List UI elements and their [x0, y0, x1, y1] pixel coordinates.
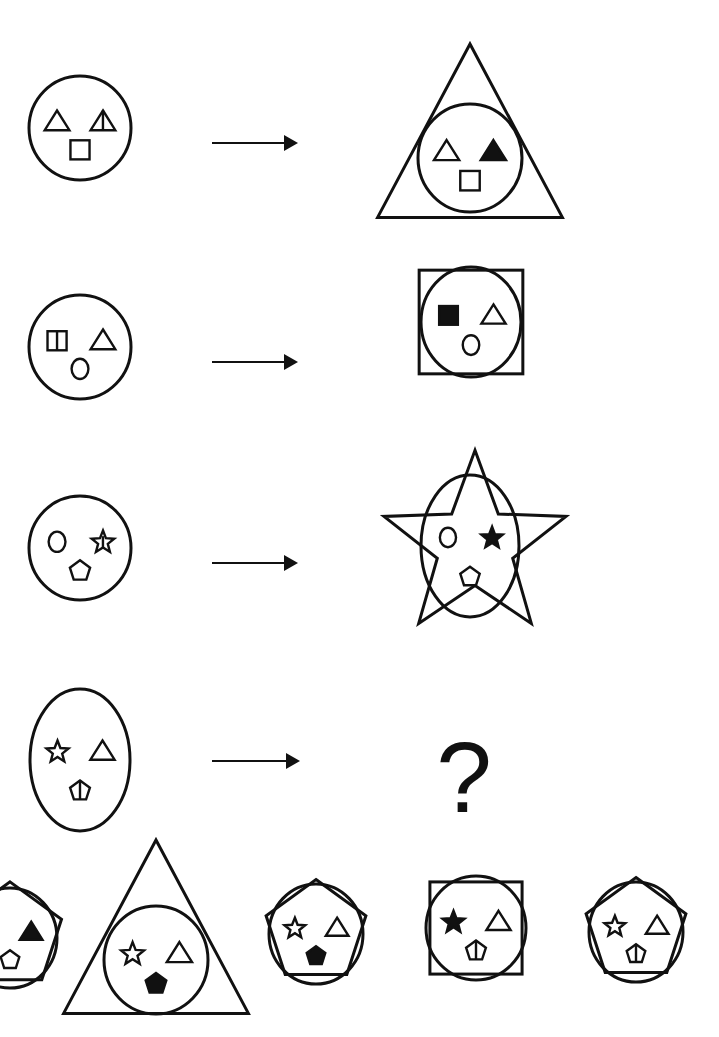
circle-shape — [49, 532, 66, 552]
circle-icon — [49, 532, 66, 552]
triangle-filled-icon — [481, 140, 506, 160]
option-3[interactable] — [266, 880, 366, 985]
example-row-2 — [29, 267, 523, 399]
triangle-shape — [91, 330, 116, 350]
triangle-shape — [486, 911, 510, 930]
example-output — [378, 44, 563, 217]
pentagon-shape — [460, 567, 479, 586]
circle-shape — [463, 335, 480, 355]
option-2[interactable] — [64, 840, 249, 1014]
face-circle — [418, 104, 522, 212]
outline-circle — [104, 906, 208, 1014]
face-circle — [29, 76, 131, 180]
star-shape — [605, 916, 626, 936]
triangle-shape — [326, 918, 349, 936]
question-mark: ? — [436, 721, 492, 833]
star-icon — [605, 916, 626, 936]
triangle-shape — [167, 942, 192, 962]
example-row-1 — [29, 44, 562, 217]
star-shape — [47, 741, 69, 762]
answer-options — [0, 840, 686, 1014]
circle-icon — [72, 359, 89, 379]
star-shape — [285, 918, 306, 938]
star-shape — [443, 911, 465, 932]
outline-circle — [269, 884, 363, 984]
arrow-head — [286, 753, 300, 769]
triangle-icon — [434, 140, 459, 160]
pentagon-shape — [70, 560, 90, 579]
circle-shape — [440, 528, 456, 547]
triangle-shape — [90, 741, 114, 760]
face-circle — [421, 267, 521, 377]
triangle-shape — [45, 111, 70, 131]
pentagon-shape — [307, 946, 326, 964]
option-4[interactable] — [426, 876, 526, 980]
pentagon-shape — [1, 950, 20, 968]
star-shape — [481, 527, 503, 548]
pentagon-icon — [70, 560, 90, 579]
face-circle — [269, 884, 363, 984]
circle-icon — [463, 335, 480, 355]
outline-circle — [426, 876, 526, 980]
square-shape — [439, 306, 458, 325]
square-filled-icon — [439, 306, 458, 325]
triangle-divided-icon — [91, 111, 116, 131]
arrow-icon — [212, 354, 298, 370]
square-shape — [460, 171, 479, 190]
outline-circle — [29, 76, 131, 180]
star-divided-icon — [92, 531, 115, 552]
square-divided-icon — [48, 331, 67, 350]
triangle-shape — [481, 304, 505, 323]
star-shape — [121, 942, 144, 964]
circle-icon — [440, 528, 456, 547]
outline-circle — [589, 882, 683, 982]
circle-shape — [72, 359, 89, 379]
arrow-icon — [212, 135, 298, 151]
triangle-filled-icon — [20, 922, 43, 940]
star-icon — [47, 741, 69, 762]
triangle-shape — [481, 140, 506, 160]
example-output — [419, 267, 523, 377]
star-icon — [121, 942, 144, 964]
triangle-icon — [45, 111, 70, 131]
arrow-head — [284, 354, 298, 370]
pentagon-filled-icon — [307, 946, 326, 964]
example-output — [384, 450, 566, 623]
example-row-3 — [29, 450, 566, 623]
triangle-icon — [646, 916, 669, 934]
star-filled-icon — [481, 527, 503, 548]
option-5[interactable] — [586, 878, 686, 983]
pentagon-divided-icon — [466, 940, 486, 959]
triangle-shape — [434, 140, 459, 160]
arrow-icon — [212, 555, 298, 571]
pentagon-filled-icon — [146, 973, 167, 993]
pentagon-icon — [460, 567, 479, 586]
triangle-icon — [90, 741, 114, 760]
triangle-icon — [326, 918, 349, 936]
pentagon-divided-icon — [627, 944, 646, 962]
square-shape — [70, 140, 89, 159]
outline-circle — [418, 104, 522, 212]
face-circle — [426, 876, 526, 980]
pentagon-shape — [146, 973, 167, 993]
arrow-head — [284, 555, 298, 571]
face-circle — [104, 906, 208, 1014]
option-1[interactable] — [0, 882, 62, 988]
star-filled-icon — [443, 911, 465, 932]
triangle-icon — [486, 911, 510, 930]
face-circle — [30, 689, 130, 831]
face-circle — [29, 496, 131, 600]
triangle-icon — [481, 304, 505, 323]
triangle-shape — [646, 916, 669, 934]
square-icon — [460, 171, 479, 190]
arrow-icon — [212, 753, 300, 769]
triangle-icon — [167, 942, 192, 962]
triangle-icon — [91, 330, 116, 350]
outline-circle — [29, 295, 131, 399]
pentagon-divided-icon — [70, 780, 90, 799]
outline-circle — [421, 475, 519, 617]
face-circle — [0, 888, 57, 988]
pentagon-icon — [1, 950, 20, 968]
star-icon — [285, 918, 306, 938]
square-icon — [70, 140, 89, 159]
